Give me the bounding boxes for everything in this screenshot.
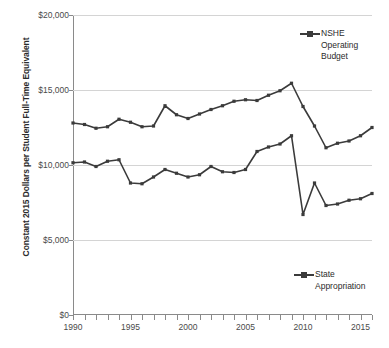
x-axis-tick-label: 1995	[106, 322, 156, 332]
x-axis-tick-mark	[188, 315, 189, 320]
series-data-point	[71, 161, 74, 164]
series-data-point	[198, 173, 201, 176]
x-axis-tick-mark	[223, 315, 224, 320]
series-data-point	[175, 113, 178, 116]
series-data-point	[163, 168, 166, 171]
x-axis-tick-mark	[269, 315, 270, 320]
x-axis-tick-mark	[292, 315, 293, 320]
x-axis-tick-label: 1990	[48, 322, 98, 332]
x-axis-tick-label: 2000	[163, 322, 213, 332]
series-data-point	[290, 134, 293, 137]
y-axis-tick-mark	[69, 165, 73, 166]
y-axis-labels: $0$5,000$10,000$15,000$20,000	[9, 0, 69, 348]
series-data-point	[336, 202, 339, 205]
series-data-point	[140, 182, 143, 185]
x-axis-tick-mark	[315, 315, 316, 320]
series-data-point	[359, 197, 362, 200]
series-data-point	[209, 165, 212, 168]
series-data-point	[129, 121, 132, 124]
series-data-point	[347, 199, 350, 202]
x-axis-tick-mark	[177, 315, 178, 320]
x-axis-tick-mark	[119, 315, 120, 320]
x-axis-tick-mark	[108, 315, 109, 320]
series-data-point	[94, 127, 97, 130]
series-data-point	[83, 123, 86, 126]
series-data-point	[267, 145, 270, 148]
series-data-point	[221, 170, 224, 173]
series-data-point	[336, 142, 339, 145]
series-data-point	[129, 181, 132, 184]
series-data-point	[278, 142, 281, 145]
series-data-point	[175, 172, 178, 175]
x-axis-labels: 199019952000200520102015	[0, 322, 389, 338]
y-axis-tick-mark	[69, 90, 73, 91]
series-data-point	[324, 204, 327, 207]
series-data-point	[370, 192, 373, 195]
series-data-point	[255, 99, 258, 102]
x-axis-tick-mark	[338, 315, 339, 320]
legend-state-appropriation: State Appropriation	[293, 269, 366, 292]
series-data-point	[83, 160, 86, 163]
series-data-point	[140, 125, 143, 128]
series-data-point	[94, 165, 97, 168]
series-data-point	[221, 104, 224, 107]
x-axis-tick-label: 2015	[336, 322, 386, 332]
series-data-point	[267, 94, 270, 97]
series-data-point	[117, 158, 120, 161]
legend-line-marker-icon	[293, 269, 315, 281]
x-axis-tick-mark	[211, 315, 212, 320]
x-axis-tick-mark	[154, 315, 155, 320]
x-axis-tick-mark	[200, 315, 201, 320]
series-data-point	[359, 134, 362, 137]
series-data-point	[313, 181, 316, 184]
x-axis-tick-mark	[165, 315, 166, 320]
x-axis-tick-mark	[85, 315, 86, 320]
series-data-point	[71, 121, 74, 124]
series-data-point	[152, 124, 155, 127]
y-axis-title: Constant 2015 Dollars per Student Full-T…	[21, 17, 31, 277]
x-axis-tick-mark	[73, 315, 74, 320]
x-axis-tick-mark	[349, 315, 350, 320]
series-data-point	[301, 213, 304, 216]
series-data-point	[186, 175, 189, 178]
series-data-point	[278, 89, 281, 92]
chart-container: $0$5,000$10,000$15,000$20,000 Constant 2…	[0, 0, 389, 348]
x-axis-tick-mark	[361, 315, 362, 320]
series-data-point	[370, 126, 373, 129]
series-data-point	[301, 105, 304, 108]
x-axis-tick-mark	[280, 315, 281, 320]
x-axis-tick-mark	[257, 315, 258, 320]
series-data-point	[324, 146, 327, 149]
x-axis-tick-mark	[326, 315, 327, 320]
series-data-point	[232, 171, 235, 174]
series-data-point	[255, 150, 258, 153]
series-data-point	[232, 100, 235, 103]
series-data-point	[347, 139, 350, 142]
x-axis-tick-mark	[96, 315, 97, 320]
series-line	[73, 83, 372, 148]
legend-state-label: State Appropriation	[315, 269, 366, 292]
x-axis-tick-mark	[246, 315, 247, 320]
x-axis-tick-mark	[303, 315, 304, 320]
legend-nshe-operating-budget: NSHE Operating Budget	[299, 28, 358, 63]
x-axis-tick-mark	[131, 315, 132, 320]
y-axis-tick-label: $0	[15, 310, 69, 320]
series-data-point	[244, 98, 247, 101]
x-axis-tick-label: 2005	[221, 322, 271, 332]
series-data-point	[244, 168, 247, 171]
series-data-point	[152, 175, 155, 178]
x-axis-tick-label: 2010	[278, 322, 328, 332]
series-data-point	[163, 104, 166, 107]
series-data-point	[290, 82, 293, 85]
x-axis-ticks	[73, 315, 372, 322]
y-axis-tick-mark	[69, 315, 73, 316]
series-data-point	[106, 160, 109, 163]
x-axis-tick-mark	[372, 315, 373, 320]
y-axis-tick-mark	[69, 15, 73, 16]
series-data-point	[117, 118, 120, 121]
series-data-point	[106, 125, 109, 128]
x-axis-tick-mark	[234, 315, 235, 320]
legend-line-marker-icon	[299, 28, 321, 40]
series-data-point	[313, 124, 316, 127]
y-axis-tick-mark	[69, 240, 73, 241]
